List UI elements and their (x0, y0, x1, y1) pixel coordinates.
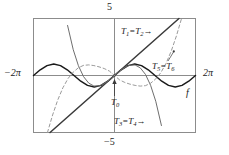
annotation-t1-t2-arrow: → (144, 26, 153, 36)
taylor-polynomial-figure: 5 −5 −2π 2π T1=T2→ T5=T6 T3=T4→ T0 f (0, 0, 229, 155)
annotation-t0-sub: 0 (116, 101, 119, 108)
plot-canvas (0, 0, 229, 155)
annotation-f: f (186, 88, 189, 98)
t0-arrowhead (112, 79, 116, 84)
annotation-t5-t6: T5=T6 (152, 62, 175, 71)
annotation-t1-t2: T1=T2→ (121, 27, 153, 36)
annotation-t3-t4-sub-b: 4 (133, 120, 136, 127)
annotation-t5-t6-sub-a: 5 (157, 65, 160, 72)
annotation-t1-t2-sub-b: 2 (140, 30, 143, 37)
annotation-t1-t2-sub-a: 1 (126, 30, 129, 37)
x-axis-min-label: −2π (4, 68, 21, 78)
x-axis-max-label: 2π (203, 68, 213, 78)
annotation-t5-t6-sub-b: 6 (171, 65, 174, 72)
y-axis-min-label: −5 (104, 137, 115, 147)
annotation-t0: T0 (111, 98, 119, 107)
annotation-t3-t4-arrow: → (137, 116, 146, 126)
t5-t6-leader-dot (173, 50, 175, 52)
y-axis-max-label: 5 (107, 2, 112, 12)
annotation-t3-t4-sub-a: 3 (119, 120, 122, 127)
annotation-t3-t4: T3=T4→ (114, 117, 146, 126)
